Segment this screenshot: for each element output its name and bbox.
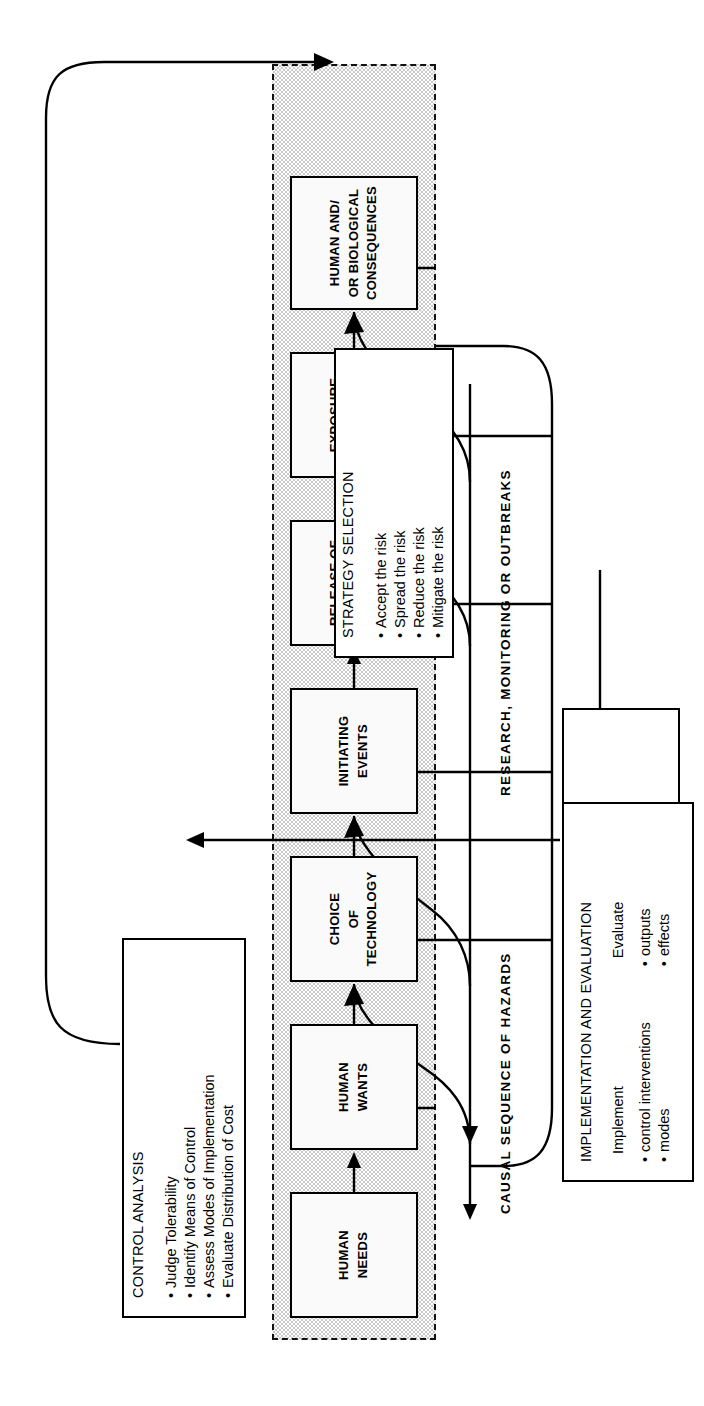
chain-label: CONSEQUENCES	[363, 186, 382, 300]
list-item: Assess Modes of Implementation	[200, 958, 219, 1298]
hazard-to-control-arrow	[186, 832, 560, 848]
panel-control-analysis[interactable]: CONTROL ANALYSIS Judge Tolerability Iden…	[122, 938, 246, 1318]
chain-label: HUMAN	[335, 1062, 354, 1112]
panel-implementation-and-evaluation[interactable]: IMPLEMENTATION AND EVALUATION Implement …	[562, 802, 694, 1182]
implementation-column-evaluate: Evaluate outputs effects	[610, 902, 674, 966]
panel-list: Accept the risk Spread the risk Reduce t…	[372, 368, 449, 638]
label-research-monitoring-or-outbreaks: RESEARCH, MONITORING OR OUTBREAKS	[498, 469, 513, 796]
chain-box-consequences[interactable]: HUMAN AND/ OR BIOLOGICAL CONSEQUENCES	[290, 176, 418, 310]
chain-label: OF	[345, 910, 364, 929]
label-causal-sequence-of-hazards: CAUSAL SEQUENCE OF HAZARDS	[498, 952, 513, 1214]
chain-box-initiating-events[interactable]: INITIATING EVENTS	[290, 688, 418, 814]
chain-label: WANTS	[354, 1063, 373, 1111]
chain-label: HUMAN	[335, 1230, 354, 1280]
panel-list: control interventions modes	[636, 1022, 674, 1162]
column-heading: Implement	[610, 1022, 626, 1154]
chain-label: OR BIOLOGICAL	[345, 189, 364, 298]
list-item: effects	[655, 902, 674, 966]
list-item: outputs	[636, 902, 655, 966]
panel-list: Judge Tolerability Identify Means of Con…	[162, 958, 239, 1298]
list-item: Mitigate the risk	[429, 368, 448, 638]
panel-list: outputs effects	[636, 902, 674, 966]
chain-label: EVENTS	[354, 724, 373, 778]
list-item: Evaluate Distribution of Cost	[219, 958, 238, 1298]
list-item: Identify Means of Control	[181, 958, 200, 1298]
panel-strategy-selection[interactable]: STRATEGY SELECTION Accept the risk Sprea…	[334, 348, 454, 658]
panel-title: CONTROL ANALYSIS	[130, 958, 146, 1298]
chain-box-human-wants[interactable]: HUMAN WANTS	[290, 1024, 418, 1150]
chain-label: TECHNOLOGY	[363, 872, 382, 967]
list-item: Spread the risk	[391, 368, 410, 638]
chain-box-choice-of-technology[interactable]: CHOICE OF TECHNOLOGY	[290, 856, 418, 982]
chain-box-human-needs[interactable]: HUMAN NEEDS	[290, 1192, 418, 1318]
list-item: modes	[655, 1022, 674, 1162]
chain-label: INITIATING	[335, 716, 354, 787]
chain-label: NEEDS	[354, 1232, 373, 1278]
chain-label: HUMAN AND/	[326, 200, 345, 286]
diagram-canvas: HUMAN NEEDS HUMAN WANTS CHOICE OF TECHNO…	[0, 0, 704, 1406]
column-heading: Evaluate	[610, 902, 626, 958]
list-item: Reduce the risk	[410, 368, 429, 638]
chain-label: CHOICE	[326, 893, 345, 945]
list-item: Accept the risk	[372, 368, 391, 638]
list-item: control interventions	[636, 1022, 655, 1162]
panel-title: STRATEGY SELECTION	[340, 368, 356, 638]
implementation-column-implement: Implement control interventions modes	[610, 1022, 674, 1162]
list-item: Judge Tolerability	[162, 958, 181, 1298]
panel-title: IMPLEMENTATION AND EVALUATION	[578, 822, 594, 1162]
